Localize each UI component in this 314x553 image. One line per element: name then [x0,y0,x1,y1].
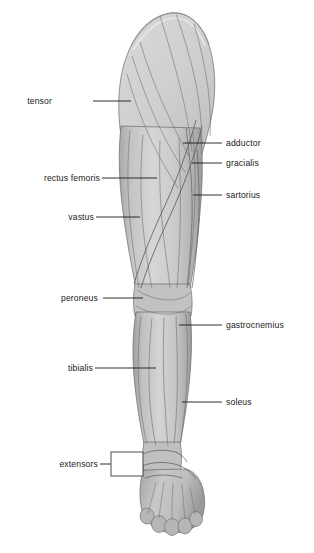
ankle [143,442,182,472]
leg-anatomy-figure: tensor rectus femoris vastus peroneus ti… [0,0,314,553]
label-tensor-text: tensor [27,96,52,106]
label-sartorius-text: sartorius [226,190,260,200]
label-peroneus-text: peroneus [61,293,98,303]
label-gastrocnemius[interactable]: gastrocnemius [179,320,284,330]
label-rectus-femoris-text: rectus femoris [44,173,100,183]
label-peroneus[interactable]: peroneus [61,293,143,303]
label-gracialis-text: gracialis [226,158,259,168]
label-soleus-text: soleus [226,397,252,407]
label-gastrocnemius-text: gastrocnemius [226,320,284,330]
label-sartorius[interactable]: sartorius [193,190,260,200]
label-vastus-text: vastus [68,212,94,222]
extensors-callout-box [111,452,143,476]
label-extensors[interactable]: extensors [59,459,111,469]
label-tensor[interactable]: tensor [27,96,131,106]
label-extensors-text: extensors [59,459,98,469]
label-soleus[interactable]: soleus [182,397,252,407]
label-adductor-text: adductor [226,138,261,148]
label-tibialis-text: tibialis [68,363,93,373]
